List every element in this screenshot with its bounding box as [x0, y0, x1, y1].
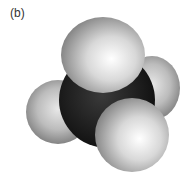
- hydrogen-atom-front: [95, 98, 169, 172]
- methane-space-filling-model: [0, 0, 192, 180]
- hydrogen-atom-top: [61, 17, 145, 93]
